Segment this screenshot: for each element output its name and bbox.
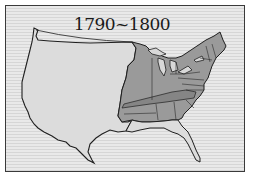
eastern-states <box>118 32 226 122</box>
map-title: 1790~1800 <box>62 14 182 34</box>
florida <box>126 120 200 162</box>
western-territory <box>22 28 136 163</box>
